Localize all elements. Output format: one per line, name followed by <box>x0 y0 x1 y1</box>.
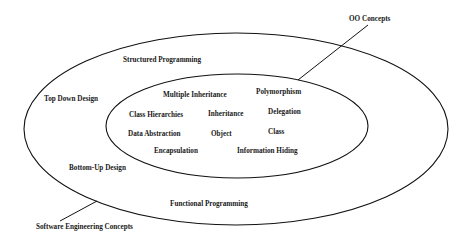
information-hiding-label: Information Hiding <box>237 147 298 155</box>
concept-diagram: OO Concepts Software Engineering Concept… <box>0 0 472 240</box>
inheritance-label: Inheritance <box>208 110 244 118</box>
bottom-up-design-label: Bottom-Up Design <box>69 164 126 172</box>
software-engineering-concepts-label: Software Engineering Concepts <box>36 223 133 231</box>
encapsulation-label: Encapsulation <box>154 147 198 155</box>
top-down-design-label: Top Down Design <box>44 95 98 103</box>
oo-concepts-label: OO Concepts <box>349 15 391 23</box>
polymorphism-label: Polymorphism <box>256 88 301 96</box>
delegation-label: Delegation <box>268 108 301 116</box>
object-label: Object <box>211 130 232 138</box>
structured-programming-label: Structured Programming <box>123 56 202 64</box>
se-concepts-leader-line <box>60 201 97 221</box>
data-abstraction-label: Data Abstraction <box>128 130 181 138</box>
class-label: Class <box>268 128 285 136</box>
oo-concepts-leader-line <box>298 25 368 80</box>
oo-concepts-ellipse <box>106 74 368 178</box>
multiple-inheritance-label: Multiple Inheritance <box>163 91 227 99</box>
software-engineering-ellipse <box>24 33 448 225</box>
functional-programming-label: Functional Programming <box>170 200 248 208</box>
class-hierarchies-label: Class Hierarchies <box>129 111 183 119</box>
